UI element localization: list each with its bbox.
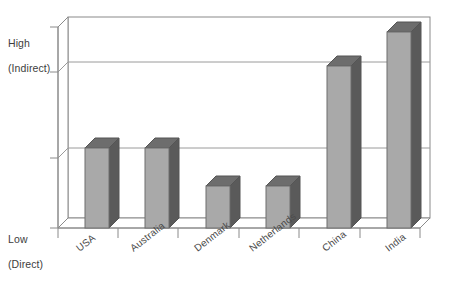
bar-series [0,0,462,305]
bar-china[interactable] [327,56,361,228]
bar-usa[interactable] [85,138,119,228]
bar-australia[interactable] [145,138,179,228]
chart-container: High (Indirect) Low (Direct) [0,0,462,305]
bar-india[interactable] [387,22,421,228]
